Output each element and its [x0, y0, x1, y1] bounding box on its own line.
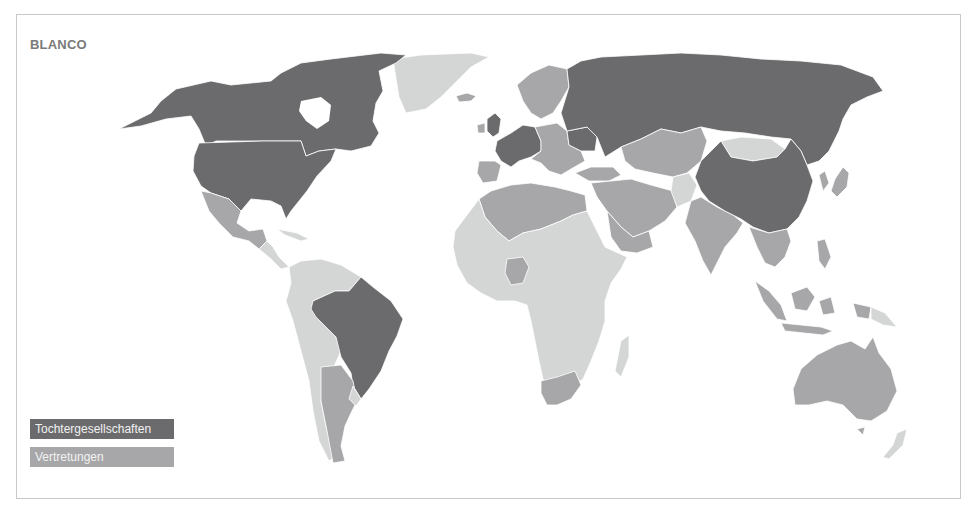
region-new-zealand	[883, 429, 907, 459]
region-central-america	[259, 241, 289, 269]
region-iberia	[477, 161, 501, 183]
region-greenland	[393, 53, 489, 113]
legend-subsidiaries: Tochtergesellschaften	[30, 419, 174, 439]
region-canada	[119, 53, 406, 156]
region-japan	[831, 167, 849, 197]
legend-subsidiaries-label: Tochtergesellschaften	[35, 422, 151, 436]
legend-representations: Vertretungen	[30, 447, 174, 467]
region-korea	[819, 171, 829, 191]
region-iceland	[456, 93, 476, 102]
region-indonesia	[755, 281, 871, 335]
region-western-europe	[495, 125, 541, 167]
region-tasmania	[857, 427, 865, 435]
region-scandinavia	[517, 65, 569, 119]
region-philippines	[817, 239, 831, 269]
region-uk	[487, 113, 501, 137]
region-papua-new-guinea	[871, 307, 897, 327]
region-madagascar	[615, 335, 629, 377]
region-middle-east	[591, 179, 677, 237]
region-ireland	[477, 123, 485, 133]
region-australia	[793, 337, 897, 421]
region-caribbean	[277, 229, 309, 241]
legend-representations-label: Vertretungen	[35, 450, 104, 464]
region-turkey	[575, 167, 621, 181]
region-southeast-asia	[749, 227, 791, 267]
map-frame: BLANCO	[16, 14, 961, 499]
